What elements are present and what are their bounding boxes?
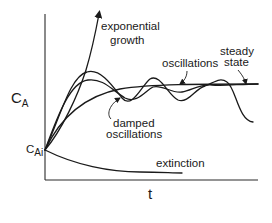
oscillations-label: oscillations [162, 57, 218, 69]
x-axis-label: t [148, 185, 153, 202]
extinction-label: extinction [156, 157, 205, 169]
steady-state-label-2: state [224, 56, 249, 68]
behavior-diagram: CA CAi t exponential growth steady state… [0, 0, 272, 223]
damped-oscillations-leader [109, 98, 120, 119]
damped-oscillations-label-2: oscillations [106, 128, 162, 140]
steady-state-leader [238, 70, 246, 84]
exponential-growth-label-2: growth [110, 34, 145, 46]
y-axis-label: CA [11, 89, 29, 109]
initial-value-label: CAi [26, 143, 43, 158]
oscillations-leader [180, 71, 187, 84]
exponential-growth-label: exponential [101, 20, 160, 32]
